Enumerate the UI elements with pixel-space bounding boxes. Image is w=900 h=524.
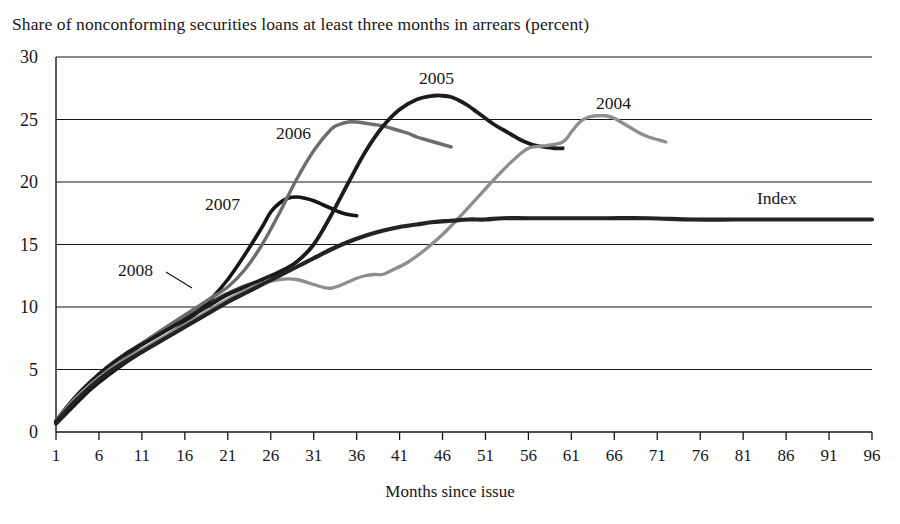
series-label-2005: 2005 xyxy=(419,70,454,88)
leader-line-2008 xyxy=(166,272,192,288)
series-lines xyxy=(56,95,872,424)
series-label-Index: Index xyxy=(757,190,797,208)
chart-figure: Share of nonconforming securities loans … xyxy=(0,0,900,524)
series-label-2007: 2007 xyxy=(205,196,240,214)
x-axis-ticks xyxy=(56,432,872,440)
gridlines xyxy=(56,57,872,432)
series-label-2006: 2006 xyxy=(276,125,311,143)
series-label-2008: 2008 xyxy=(118,262,153,280)
series-label-2004: 2004 xyxy=(596,95,631,113)
label-leader-lines xyxy=(166,272,192,288)
x-axis-title: Months since issue xyxy=(0,482,900,502)
